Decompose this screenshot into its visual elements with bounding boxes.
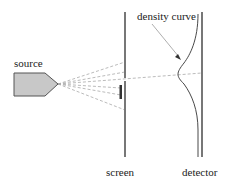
pointer-arrow (152, 24, 179, 57)
slit-blocker (120, 85, 123, 99)
screen-label: screen (106, 166, 135, 178)
source-label: source (14, 57, 43, 69)
double-slit-diagram: source density curve screen detector (0, 0, 228, 183)
detector-label: detector (182, 166, 218, 178)
source-shape (14, 73, 58, 96)
ray-lines (58, 62, 202, 110)
density-curve (178, 14, 198, 157)
arrow-head-icon (175, 54, 181, 60)
density-curve-label: density curve (137, 10, 196, 22)
